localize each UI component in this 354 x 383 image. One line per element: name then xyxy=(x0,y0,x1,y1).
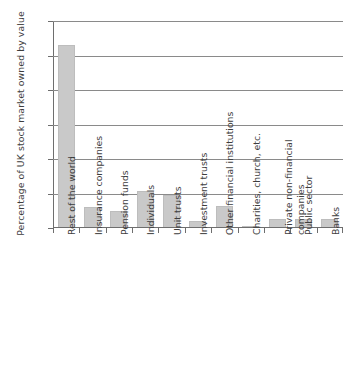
x-tick-label: Individuals xyxy=(145,89,157,235)
x-tick-label: Charities, church, etc. xyxy=(251,89,263,235)
x-tick-label: Unit trusts xyxy=(172,89,184,235)
x-tick-label: Banks xyxy=(330,89,342,235)
x-tick-label: Pension funds xyxy=(119,89,131,235)
y-tick-mark xyxy=(48,56,53,57)
x-axis-labels: Rest of the worldInsurance companiesPens… xyxy=(53,233,343,381)
y-axis-title: Percentage of UK stock market owned by v… xyxy=(15,9,26,239)
y-tick-mark xyxy=(48,159,53,160)
y-tick-mark xyxy=(48,125,53,126)
y-tick-mark xyxy=(48,90,53,91)
y-tick-mark xyxy=(48,21,53,22)
y-tick-mark xyxy=(48,194,53,195)
x-tick-label: Public sector xyxy=(303,89,315,235)
x-tick-label: Investment trusts xyxy=(198,89,210,235)
x-tick-label: Insurance companies xyxy=(93,89,105,235)
x-tick-label: Rest of the world xyxy=(66,89,78,235)
x-label-slot: Banks xyxy=(317,233,354,259)
bar-chart: Percentage of UK stock market owned by v… xyxy=(0,0,354,383)
x-tick-label: Other financial institutions xyxy=(224,89,236,235)
